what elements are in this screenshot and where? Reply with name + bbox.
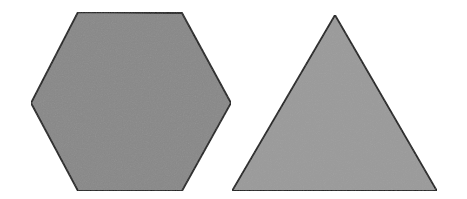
shapes-svg	[0, 0, 467, 199]
image-canvas	[0, 0, 467, 199]
